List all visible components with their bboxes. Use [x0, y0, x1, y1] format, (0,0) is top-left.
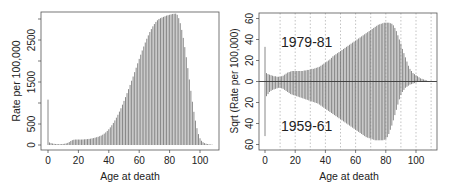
y-tick-label: 20: [244, 55, 255, 67]
x-tick-label: 40: [320, 155, 332, 166]
x-tick-label: 80: [380, 155, 392, 166]
chart-canvas: 020406080100 050015002500 Age at death R…: [0, 0, 453, 188]
y-tick-label: 1500: [26, 70, 37, 93]
right-x-axis-title: Age at death: [319, 170, 379, 182]
y-tick-label: 2500: [26, 28, 37, 51]
figure: 020406080100 050015002500 Age at death R…: [0, 0, 453, 188]
right-y-axis: 0204060204060: [244, 13, 259, 151]
y-tick-label: 60: [244, 13, 255, 25]
x-tick-label: 0: [262, 155, 268, 166]
x-tick-label: 20: [290, 155, 302, 166]
left-y-axis-title: Rate per 100,000: [10, 40, 22, 121]
x-tick-label: 60: [134, 155, 146, 166]
x-tick-label: 60: [350, 155, 362, 166]
y-tick-label: 60: [244, 139, 255, 151]
left-x-axis: 020406080100: [45, 150, 209, 166]
x-tick-label: 100: [408, 155, 425, 166]
y-tick-label: 20: [244, 97, 255, 109]
y-tick-label: 40: [244, 34, 255, 46]
y-tick-label: 0: [244, 78, 255, 84]
left-panel: 020406080100 050015002500 Age at death R…: [10, 12, 219, 182]
right-y-axis-title: Sqrt (Rate per 100,000): [229, 28, 240, 133]
x-tick-label: 80: [164, 155, 176, 166]
x-tick-label: 0: [45, 155, 51, 166]
x-tick-label: 100: [192, 155, 209, 166]
series-label-1979-81: 1979-81: [281, 34, 333, 50]
y-tick-label: 40: [244, 118, 255, 130]
left-bars: [48, 14, 212, 145]
x-tick-label: 40: [103, 155, 115, 166]
right-x-axis: 020406080100: [262, 150, 425, 166]
series-label-1959-61: 1959-61: [281, 118, 333, 134]
left-y-axis: 050015002500: [26, 19, 41, 148]
y-tick-label: 0: [26, 142, 37, 148]
right-panel: 020406080100 0204060204060 Age at death …: [229, 13, 437, 182]
y-tick-label: 500: [26, 115, 37, 132]
left-x-axis-title: Age at death: [100, 170, 160, 182]
x-tick-label: 20: [73, 155, 85, 166]
